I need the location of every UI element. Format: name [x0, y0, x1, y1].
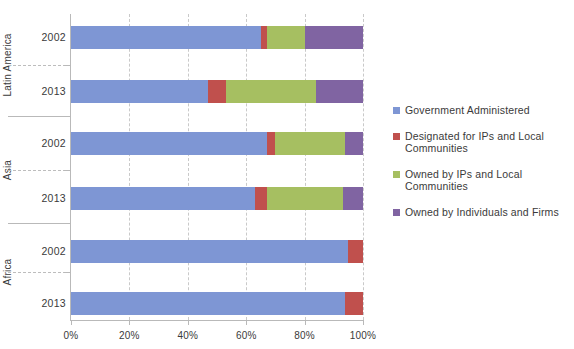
bar-row	[71, 132, 363, 155]
bar-segment	[345, 132, 363, 155]
gridline	[305, 14, 307, 320]
y-axis-year-label: 2002	[28, 137, 66, 149]
bar-segment	[208, 80, 226, 103]
bar-row	[71, 80, 363, 103]
bar-segment	[345, 292, 363, 315]
legend-label: Owned by Individuals and Firms	[405, 206, 559, 219]
year-separator	[8, 65, 71, 66]
x-tick-label: 80%	[294, 330, 315, 341]
x-tick-label: 0%	[64, 330, 79, 341]
bar-row	[71, 240, 363, 263]
gridline	[363, 14, 365, 320]
legend-label: Designated for IPs and Local Communities	[405, 130, 569, 155]
x-tick-mark	[71, 320, 72, 325]
chart-legend: Government AdministeredDesignated for IP…	[393, 104, 569, 231]
bar-segment	[305, 26, 363, 49]
group-separator-tick	[64, 223, 71, 224]
bar-segment	[71, 240, 348, 263]
plot-area	[71, 14, 363, 320]
x-tick-mark	[363, 320, 364, 325]
bar-segment	[71, 26, 261, 49]
y-axis-year-label: 2002	[28, 245, 66, 257]
bar-segment	[316, 80, 363, 103]
bar-segment	[226, 80, 317, 103]
x-tick-label: 20%	[119, 330, 140, 341]
bar-segment	[71, 132, 267, 155]
group-separator-tick	[64, 116, 71, 117]
bar-segment	[71, 292, 345, 315]
bar-segment	[255, 187, 267, 210]
bar-segment	[267, 26, 305, 49]
year-separator	[8, 170, 71, 171]
gridline	[129, 14, 131, 320]
bar-segment	[267, 132, 276, 155]
bar-row	[71, 292, 363, 315]
gridline	[188, 14, 190, 320]
x-tick-label: 60%	[236, 330, 257, 341]
legend-swatch-icon	[393, 209, 400, 216]
y-axis-year-label: 2013	[28, 85, 66, 97]
bar-segment	[275, 132, 345, 155]
legend-label: Government Administered	[405, 104, 530, 117]
x-axis-line	[70, 320, 364, 321]
bar-segment	[71, 80, 208, 103]
x-tick-mark	[305, 320, 306, 325]
x-tick-label: 100%	[350, 330, 376, 341]
x-tick-mark	[188, 320, 189, 325]
legend-item[interactable]: Owned by IPs and Local Communities	[393, 168, 569, 193]
y-axis-year-label: 2002	[28, 31, 66, 43]
legend-swatch-icon	[393, 107, 400, 114]
y-axis-year-label: 2013	[28, 192, 66, 204]
group-separator	[8, 223, 71, 224]
gridline	[246, 14, 248, 320]
legend-label: Owned by IPs and Local Communities	[405, 168, 569, 193]
legend-swatch-icon	[393, 171, 400, 178]
year-separator-tick	[64, 272, 71, 273]
group-separator	[8, 116, 71, 117]
legend-item[interactable]: Government Administered	[393, 104, 569, 117]
bar-segment	[343, 187, 363, 210]
year-separator-tick	[64, 170, 71, 171]
legend-swatch-icon	[393, 133, 400, 140]
bar-segment	[267, 187, 343, 210]
legend-item[interactable]: Designated for IPs and Local Communities	[393, 130, 569, 155]
year-separator-tick	[64, 65, 71, 66]
x-tick-mark	[129, 320, 130, 325]
bar-segment	[71, 187, 255, 210]
legend-item[interactable]: Owned by Individuals and Firms	[393, 206, 569, 219]
stacked-bar-chart: 0%20%40%60%80%100% 200220132002201320022…	[0, 0, 574, 349]
x-tick-label: 40%	[177, 330, 198, 341]
bar-row	[71, 26, 363, 49]
year-separator	[8, 272, 71, 273]
y-axis-year-label: 2013	[28, 297, 66, 309]
bar-segment	[348, 240, 363, 263]
bar-row	[71, 187, 363, 210]
x-tick-mark	[246, 320, 247, 325]
